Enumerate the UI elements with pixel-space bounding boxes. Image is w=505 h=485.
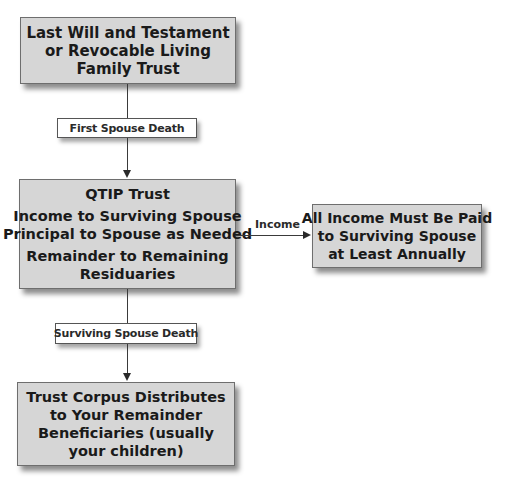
connector-qtip-to-income (236, 235, 304, 236)
node-text: your children) (68, 442, 183, 460)
node-text: to Surviving Spouse (318, 227, 476, 245)
node-will-or-living-trust: Last Will and Testament or Revocable Liv… (20, 17, 236, 84)
edge-label-surviving-spouse-death: Surviving Spouse Death (55, 323, 197, 344)
connector-will-to-label (127, 84, 128, 118)
edge-label-first-spouse-death: First Spouse Death (57, 118, 197, 138)
arrow-down-icon (123, 170, 131, 178)
node-text: Family Trust (76, 60, 179, 78)
node-text: at Least Annually (328, 245, 466, 263)
node-text: All Income Must Be Paid (302, 209, 492, 227)
node-text: or Revocable Living (45, 42, 211, 60)
connector-qtip-to-label (127, 289, 128, 323)
edge-label-income: Income (255, 218, 300, 231)
node-text: Remainder to Remaining (26, 247, 228, 265)
node-text: Last Will and Testament (26, 24, 229, 42)
connector-label-to-corpus (127, 344, 128, 374)
node-income-requirement: All Income Must Be Paid to Surviving Spo… (312, 204, 482, 268)
arrow-right-icon (303, 231, 311, 239)
node-text: Principal to Spouse as Needed (3, 225, 252, 243)
node-trust-corpus-distribution: Trust Corpus Distributes to Your Remaind… (17, 382, 235, 466)
node-title: QTIP Trust (85, 185, 170, 203)
connector-label-to-qtip (127, 138, 128, 171)
node-text: Income to Surviving Spouse (13, 207, 241, 225)
node-text: Residuaries (80, 265, 176, 283)
node-text: Beneficiaries (usually (38, 424, 214, 442)
node-text: Trust Corpus Distributes (26, 388, 225, 406)
arrow-down-icon (123, 373, 131, 381)
node-qtip-trust: QTIP Trust Income to Surviving Spouse Pr… (19, 179, 236, 289)
node-text: to Your Remainder (50, 406, 202, 424)
